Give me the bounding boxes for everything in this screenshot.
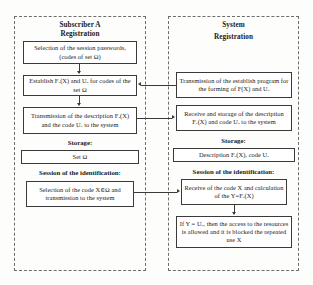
box-storage-set-omega-text: Set Ω [24, 153, 136, 161]
box-transmit-description-text: Transmission of the description Fₐ(X) an… [26, 112, 134, 128]
connector-desc-to-receive-line [137, 118, 172, 119]
label-subscriber-storage: Storage: [14, 139, 146, 147]
arrow-left-program-to-establish [138, 82, 141, 86]
diagram-canvas: Subscriber A Registration Selection of t… [0, 0, 313, 285]
box-receive-storage: Receive and storage of the description F… [176, 105, 292, 131]
arrow-down-sys-1 [232, 212, 236, 215]
box-storage-description-text: Description Fₐ(X), code Uₐ [176, 151, 292, 159]
box-transmit-description: Transmission of the description Fₐ(X) an… [23, 107, 137, 134]
box-transmit-program: Transmission of the establish program fo… [176, 72, 292, 98]
box-establish-fa: Establish Fₐ(X) and Uₐ for codes of the … [23, 75, 137, 96]
box-access-decision-text: If Y = Uₐ, then the access to the resour… [179, 220, 289, 245]
label-system-storage: Storage: [168, 137, 299, 145]
connector-program-to-establish-line [141, 85, 176, 86]
arrow-right-desc-to-receive [172, 115, 175, 119]
box-select-code: Selection of the code X∈Ω and transmissi… [26, 181, 134, 207]
arrow-down-sub-1 [77, 71, 81, 74]
panel-subscriber-title-line1: Subscriber A [14, 21, 146, 30]
box-select-code-text: Selection of the code X∈Ω and transmissi… [29, 186, 131, 202]
connector-code-to-receive-line [134, 192, 177, 193]
box-receive-storage-text: Receive and storage of the description F… [179, 110, 289, 126]
box-access-decision: If Y = Uₐ, then the access to the resour… [176, 216, 292, 248]
box-establish-fa-text: Establish Fₐ(X) and Uₐ for codes of the … [26, 77, 134, 93]
box-select-passwords: Selection of the session passwords, (cod… [23, 41, 137, 64]
arrow-down-sub-2 [77, 103, 81, 106]
arrow-right-code-to-receive [177, 189, 180, 193]
box-storage-description: Description Fₐ(X), code Uₐ [173, 148, 295, 162]
panel-subscriber-title-line2: Registration [14, 30, 146, 39]
box-receive-code: Receive of the code X and calculation of… [181, 179, 287, 205]
box-storage-set-omega: Set Ω [21, 150, 139, 164]
box-select-passwords-text: Selection of the session passwords, (cod… [26, 44, 134, 60]
panel-system-title-line2: Registration [168, 33, 299, 42]
label-subscriber-session: Session of the identification: [14, 169, 146, 177]
box-transmit-program-text: Transmission of the establish program fo… [179, 77, 289, 93]
label-system-session: Session of the identification: [168, 168, 299, 176]
panel-system-title-line1: System [168, 21, 299, 30]
box-receive-code-text: Receive of the code X and calculation of… [184, 184, 284, 200]
